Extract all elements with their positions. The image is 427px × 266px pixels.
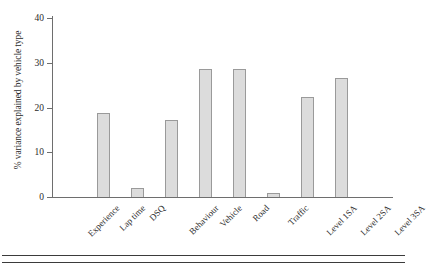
x-tick-label-text: Behaviour [187, 203, 221, 237]
x-axis-tick-labels: ExperienceLap timeDSQBehaviourVehicleRoa… [52, 197, 393, 257]
y-tick-label: 20 [0, 103, 44, 113]
x-tick-label-text: Level 1SA [324, 203, 358, 237]
bar-dsq [131, 188, 144, 197]
bar-behaviour [165, 120, 178, 197]
bar-level-1sa [301, 97, 314, 197]
y-tick-label: 0 [0, 192, 44, 202]
x-tick-label-text: Vehicle [218, 203, 244, 229]
x-tick-label-text: Road [250, 203, 271, 224]
x-tick-label-level-1sa: Level 1SA [324, 203, 358, 237]
x-tick-label-lap-time: Lap time [118, 203, 148, 233]
x-tick-label-experience: Experience [86, 203, 122, 239]
x-tick-label-text: Lap time [118, 203, 148, 233]
x-tick-label-text: Level 2SA [358, 203, 392, 237]
y-tick-label: 40 [0, 13, 44, 23]
bottom-rule-upper [2, 255, 405, 256]
bar-level-2sa [335, 78, 348, 197]
y-axis-title: % variance explained by vehicle type [11, 0, 25, 200]
x-tick-label-level-3sa: Level 3SA [392, 203, 426, 237]
bottom-rule-lower [2, 262, 405, 263]
x-tick-label-dsq: DSQ [148, 203, 168, 223]
x-tick-label-text: Experience [86, 203, 122, 239]
x-tick-label-text: Level 3SA [392, 203, 426, 237]
y-tick-label: 30 [0, 58, 44, 68]
y-tick-label: 10 [0, 147, 44, 157]
y-tick-40: 40 [0, 18, 52, 19]
x-tick-label-vehicle: Vehicle [218, 203, 244, 229]
x-tick-label-road: Road [250, 203, 271, 224]
x-tick-label-level-2sa: Level 2SA [358, 203, 392, 237]
bar-road [233, 69, 246, 197]
y-tick-30: 30 [0, 63, 52, 64]
y-tick-10: 10 [0, 152, 52, 153]
x-tick-label-text: DSQ [148, 203, 168, 223]
bar-series [52, 18, 393, 197]
x-tick-label-traffic: Traffic [286, 203, 310, 227]
bar-lap-time [97, 113, 110, 197]
x-tick-label-text: Traffic [286, 203, 310, 227]
y-tick-20: 20 [0, 108, 52, 109]
bar-vehicle [199, 69, 212, 197]
y-tick-0: 0 [0, 197, 52, 198]
x-tick-label-behaviour: Behaviour [187, 203, 221, 237]
